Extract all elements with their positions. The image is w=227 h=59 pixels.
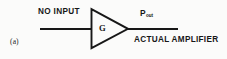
- gain-label: G: [99, 24, 106, 33]
- output-power-label: Pout: [140, 9, 153, 18]
- output-power-subscript: out: [146, 13, 153, 18]
- input-label: NO INPUT: [38, 8, 80, 16]
- figure-part-label: (a): [10, 38, 19, 46]
- amplifier-diagram: [0, 0, 227, 59]
- amplifier-triangle-icon: [92, 9, 129, 48]
- figure-container: NO INPUT Pout G ACTUAL AMPLIFIER (a): [0, 0, 227, 59]
- output-power-symbol: P: [140, 8, 146, 18]
- amplifier-caption-label: ACTUAL AMPLIFIER: [134, 36, 218, 44]
